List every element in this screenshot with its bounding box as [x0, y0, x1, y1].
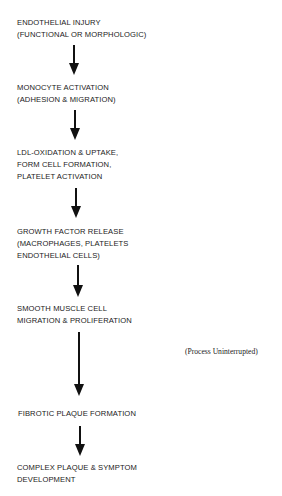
step-fibrotic-plaque: FIBROTIC PLAQUE FORMATION — [18, 408, 136, 420]
step-line: (ADHESION & MIGRATION) — [17, 94, 116, 106]
step-line: GROWTH FACTOR RELEASE — [17, 226, 128, 238]
step-line: FORM CELL FORMATION, — [17, 159, 118, 171]
down-arrow-icon — [69, 45, 79, 75]
step-growth-factor-release: GROWTH FACTOR RELEASE (MACROPHAGES, PLAT… — [17, 226, 128, 262]
step-line: MONOCYTE ACTIVATION — [17, 82, 116, 94]
step-monocyte-activation: MONOCYTE ACTIVATION (ADHESION & MIGRATIO… — [17, 82, 116, 106]
step-endothelial-injury: ENDOTHELIAL INJURY (FUNCTIONAL OR MORPHO… — [17, 17, 146, 41]
step-line: ENDOTHELIAL CELLS) — [17, 250, 128, 262]
step-ldl-oxidation: LDL-OXIDATION & UPTAKE, FORM CELL FORMAT… — [17, 147, 118, 183]
step-line: FIBROTIC PLAQUE FORMATION — [18, 408, 136, 420]
step-line: (MACROPHAGES, PLATELETS — [17, 238, 128, 250]
step-line: DEVELOPMENT — [17, 474, 137, 486]
down-arrow-icon — [73, 265, 83, 297]
step-line: PLATELET ACTIVATION — [17, 171, 118, 183]
step-line: SMOOTH MUSCLE CELL — [17, 303, 132, 315]
down-arrow-icon — [71, 188, 81, 218]
step-line: COMPLEX PLAQUE & SYMPTOM — [17, 462, 137, 474]
down-arrow-icon — [70, 110, 80, 140]
step-line: (FUNCTIONAL OR MORPHOLOGIC) — [17, 29, 146, 41]
step-line: LDL-OXIDATION & UPTAKE, — [17, 147, 118, 159]
step-smooth-muscle-cell: SMOOTH MUSCLE CELL MIGRATION & PROLIFERA… — [17, 303, 132, 327]
step-line: MIGRATION & PROLIFERATION — [17, 315, 132, 327]
step-line: ENDOTHELIAL INJURY — [17, 17, 146, 29]
process-uninterrupted-note: (Process Uninterrupted) — [185, 347, 258, 356]
down-arrow-icon — [75, 426, 85, 456]
step-complex-plaque: COMPLEX PLAQUE & SYMPTOM DEVELOPMENT — [17, 462, 137, 486]
down-arrow-icon — [74, 332, 84, 396]
